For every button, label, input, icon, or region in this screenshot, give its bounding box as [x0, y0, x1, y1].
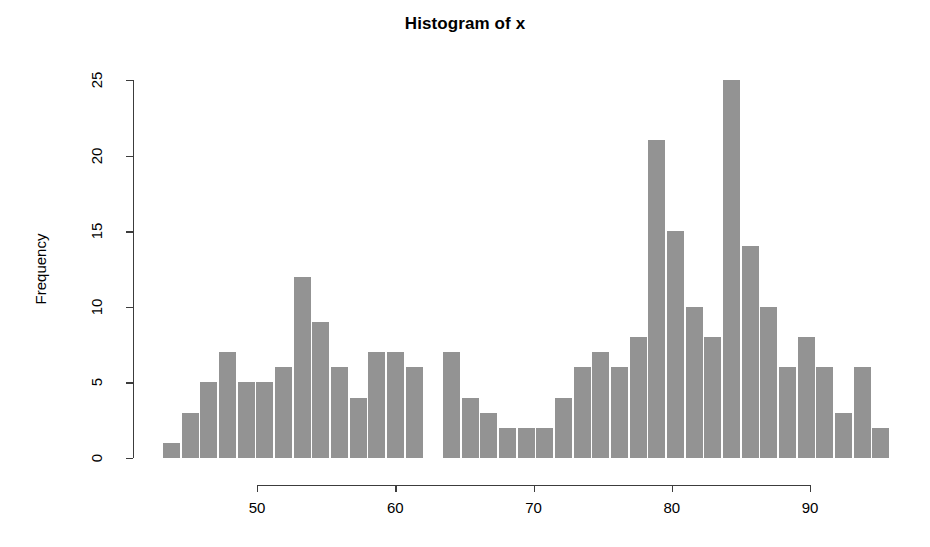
histogram-bar [536, 428, 553, 458]
histogram-bar [312, 322, 329, 458]
histogram-bar [555, 398, 572, 458]
histogram-bar [368, 352, 385, 458]
x-tick-label-60: 60 [365, 499, 425, 516]
histogram-bar [835, 413, 852, 458]
x-tick-label-90: 90 [780, 499, 840, 516]
bars-layer [0, 0, 930, 547]
histogram-bar [443, 352, 460, 458]
histogram-bar [872, 428, 889, 458]
histogram-bar [854, 367, 871, 458]
histogram-bar [238, 382, 255, 458]
x-tick-label-50: 50 [227, 499, 287, 516]
histogram-bar [480, 413, 497, 458]
histogram-bar [462, 398, 479, 458]
histogram-bar [574, 367, 591, 458]
histogram-bar [331, 367, 348, 458]
histogram-bar [611, 367, 628, 458]
histogram-bar [350, 398, 367, 458]
histogram-bar [723, 80, 740, 458]
x-tick-50 [257, 485, 258, 492]
x-tick-70 [534, 485, 535, 492]
histogram-bar [518, 428, 535, 458]
histogram-bar [219, 352, 236, 458]
histogram-bar [704, 337, 721, 458]
histogram-bar [387, 352, 404, 458]
histogram-bar [648, 140, 665, 458]
x-tick-label-80: 80 [642, 499, 702, 516]
x-tick-90 [810, 485, 811, 492]
histogram-bar [499, 428, 516, 458]
histogram-bar [630, 337, 647, 458]
histogram-bar [816, 367, 833, 458]
x-tick-60 [395, 485, 396, 492]
histogram-bar [779, 367, 796, 458]
histogram-bar [163, 443, 180, 458]
histogram-bar [406, 367, 423, 458]
histogram-bar [256, 382, 273, 458]
x-tick-label-70: 70 [504, 499, 564, 516]
histogram-bar [294, 277, 311, 458]
histogram-bar [760, 307, 777, 458]
histogram-bar [275, 367, 292, 458]
histogram-bar [686, 307, 703, 458]
histogram-bar [182, 413, 199, 458]
histogram-bar [742, 246, 759, 458]
histogram-figure: Histogram of x Frequency 0510152025 5060… [0, 0, 930, 547]
histogram-bar [200, 382, 217, 458]
plot-area: Frequency 0510152025 5060708090 [0, 0, 930, 547]
histogram-bar [798, 337, 815, 458]
histogram-bar [667, 231, 684, 458]
histogram-bar [592, 352, 609, 458]
x-tick-80 [672, 485, 673, 492]
